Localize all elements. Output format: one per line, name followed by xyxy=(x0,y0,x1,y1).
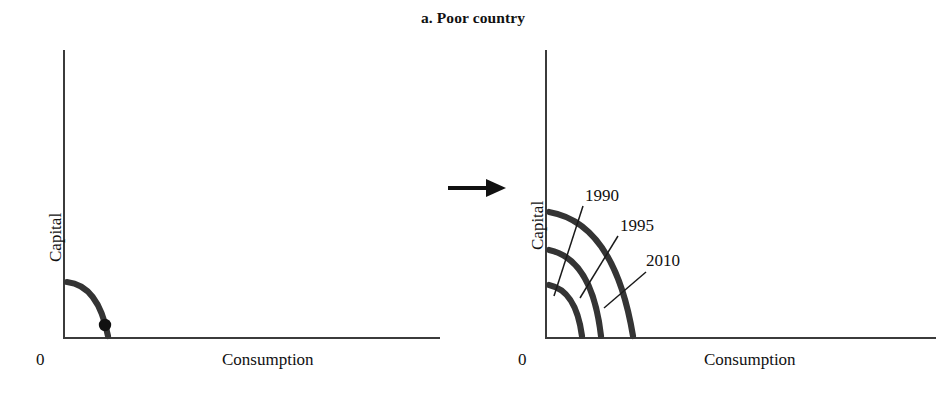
curve-label-1995: 1995 xyxy=(620,216,654,236)
output-point-marker xyxy=(99,319,111,331)
panel-poor-country-after: 1990 1995 2010 Capital 0 Consumption xyxy=(470,0,946,404)
figure-root: a. Poor country Capital 0 Consumption xyxy=(0,0,946,404)
curve-label-1990: 1990 xyxy=(585,186,619,206)
y-axis-label: Capital xyxy=(46,213,66,262)
panel-poor-country-before: Capital 0 Consumption xyxy=(0,0,470,404)
ppf-curve-1995 xyxy=(549,250,601,336)
ppf-curve-1990 xyxy=(549,285,582,336)
x-axis-label: Consumption xyxy=(222,350,314,370)
panel-before-plot xyxy=(0,0,470,404)
x-axis-label: Consumption xyxy=(704,350,796,370)
y-axis-label: Capital xyxy=(528,201,548,250)
origin-label: 0 xyxy=(36,350,45,370)
curve-label-2010: 2010 xyxy=(646,251,680,271)
origin-label: 0 xyxy=(518,350,527,370)
